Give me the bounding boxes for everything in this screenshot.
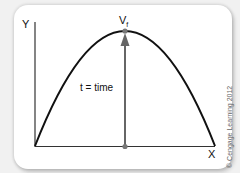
peak-label-sub: f [126, 21, 128, 28]
base-dot [122, 144, 127, 149]
peak-dot [122, 28, 127, 33]
arrow-head-icon [121, 33, 130, 46]
x-axis-label: X [208, 148, 215, 160]
copyright-text: © Cengage Learning 2012 [226, 86, 233, 168]
y-axis-label: Y [22, 18, 29, 30]
arrow-label: t = time [80, 82, 113, 93]
peak-label: Vf [119, 14, 128, 28]
